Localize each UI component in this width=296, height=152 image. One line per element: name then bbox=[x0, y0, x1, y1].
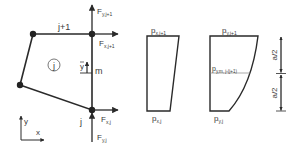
node-dot bbox=[17, 82, 23, 88]
element-polygon bbox=[17, 31, 95, 113]
ybar-label: y bbox=[80, 62, 84, 71]
dim-lower-label: a/2 bbox=[270, 87, 279, 99]
node-top-label: j+1 bbox=[57, 22, 70, 32]
force-fx-bottom: Fx,j bbox=[92, 110, 118, 125]
py-top-label: py,j+1 bbox=[222, 26, 237, 36]
svg-text:Fy,j+1: Fy,j+1 bbox=[97, 7, 112, 17]
px-top-label: px,j+1 bbox=[151, 26, 166, 36]
y-axis-label: y bbox=[24, 117, 28, 126]
py-bottom-label: py,j bbox=[214, 114, 223, 124]
node-dot bbox=[30, 31, 36, 37]
py-mid-label: py,m, j-(j+1) bbox=[212, 65, 237, 74]
dimension-lines: a/2 a/2 bbox=[270, 37, 286, 111]
dim-upper-label: a/2 bbox=[270, 49, 279, 61]
force-fx-top: Fx,j+1 bbox=[92, 34, 118, 49]
m-label: m bbox=[95, 66, 103, 76]
px-bottom-label: px,j bbox=[152, 114, 161, 124]
py-distribution-diagram: py,j+1 py,m, j-(j+1) py,j bbox=[210, 26, 258, 124]
force-fy-top: Fy,j+1 bbox=[92, 5, 112, 34]
svg-text:j: j bbox=[52, 61, 55, 71]
diagram-canvas: j+1 j j y m Fy,j+1 Fx,j+1 Fx,j Fy,j y x bbox=[0, 0, 296, 152]
svg-text:Fx,j+1: Fx,j+1 bbox=[99, 39, 115, 49]
x-axis-label: x bbox=[36, 128, 40, 137]
element-id-marker: j bbox=[48, 59, 60, 71]
node-bottom-label: j bbox=[79, 117, 82, 127]
svg-text:Fy,j: Fy,j bbox=[97, 133, 107, 143]
coordinate-axes: y x bbox=[21, 116, 44, 140]
svg-text:Fx,j: Fx,j bbox=[101, 115, 111, 125]
px-distribution-diagram: px,j+1 px,j bbox=[147, 26, 179, 124]
